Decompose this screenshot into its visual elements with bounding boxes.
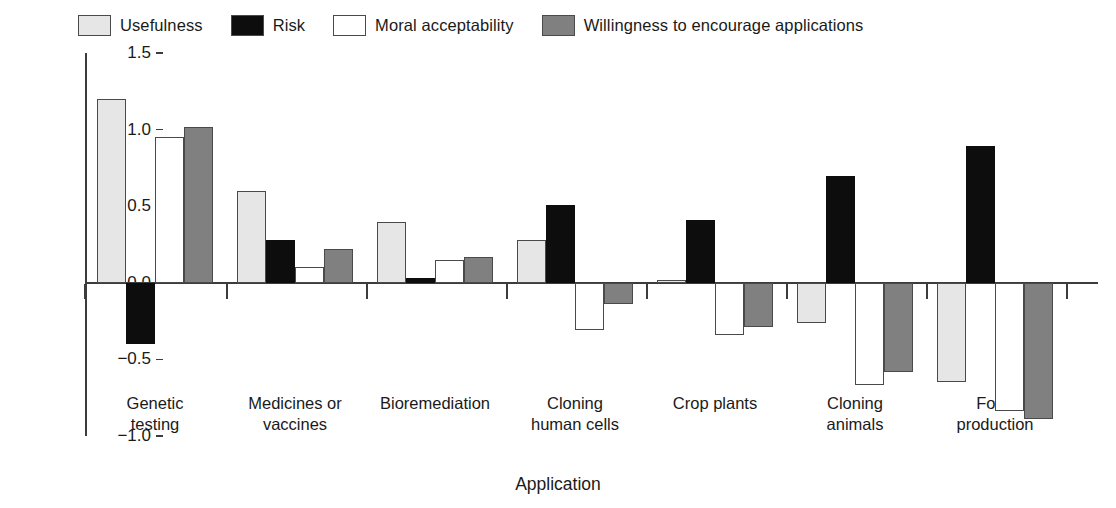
legend-label: Risk xyxy=(273,17,305,34)
y-axis-tick xyxy=(156,435,163,437)
x-axis-group-label: Medicines or vaccines xyxy=(248,393,342,435)
bar xyxy=(855,283,884,386)
bar xyxy=(377,222,406,283)
bar xyxy=(797,283,826,323)
group-separator-tick xyxy=(226,284,228,299)
bar xyxy=(884,283,913,372)
bar xyxy=(406,278,435,283)
legend-item: Moral acceptability xyxy=(333,15,514,36)
legend-swatch xyxy=(231,15,264,36)
y-axis-tick-label: −0.5 xyxy=(117,349,151,369)
bar xyxy=(575,283,604,330)
plot-area: 1.51.00.50.0−0.5−1.0 Genetic testingMedi… xyxy=(85,53,1098,436)
y-axis-tick-label: 0.5 xyxy=(127,196,151,216)
legend-label: Moral acceptability xyxy=(375,17,514,34)
bar xyxy=(546,205,575,283)
x-axis-group-label: Cloning animals xyxy=(827,393,884,435)
legend-label: Willingness to encourage applications xyxy=(584,17,864,34)
x-axis-group-label: Crop plants xyxy=(673,393,757,414)
chart-figure: UsefulnessRiskMoral acceptabilityWilling… xyxy=(0,0,1116,508)
x-axis-group-label: Cloning human cells xyxy=(531,393,619,435)
bar xyxy=(744,283,773,327)
chart-legend: UsefulnessRiskMoral acceptabilityWilling… xyxy=(78,10,891,40)
bar xyxy=(155,137,184,283)
bar xyxy=(715,283,744,335)
y-axis-tick-label: 1.5 xyxy=(127,43,151,63)
bar xyxy=(295,267,324,282)
bar xyxy=(995,283,1024,412)
bar xyxy=(184,127,213,283)
group-separator-tick xyxy=(646,284,648,299)
bar xyxy=(657,280,686,283)
legend-swatch xyxy=(333,15,366,36)
legend-swatch xyxy=(78,15,111,36)
legend-label: Usefulness xyxy=(120,17,203,34)
bar xyxy=(686,220,715,283)
y-axis-tick-label: 1.0 xyxy=(127,120,151,140)
y-axis-tick xyxy=(156,359,163,361)
legend-item: Willingness to encourage applications xyxy=(542,15,864,36)
group-separator-tick xyxy=(506,284,508,299)
legend-item: Risk xyxy=(231,15,305,36)
legend-item: Usefulness xyxy=(78,15,203,36)
group-separator-tick xyxy=(786,284,788,299)
y-axis-tick xyxy=(156,129,163,131)
bar xyxy=(97,99,126,283)
bar xyxy=(435,260,464,283)
bar xyxy=(324,249,353,283)
bar xyxy=(464,257,493,283)
x-axis-group-label: Genetic testing xyxy=(127,393,184,435)
bar xyxy=(237,191,266,283)
bar xyxy=(1024,283,1053,419)
x-axis-title: Application xyxy=(515,474,601,495)
legend-swatch xyxy=(542,15,575,36)
bar xyxy=(966,146,995,282)
group-separator-tick xyxy=(926,284,928,299)
x-axis-group-label: Bioremediation xyxy=(380,393,490,414)
bar xyxy=(266,240,295,283)
group-separator-tick xyxy=(366,284,368,299)
bar xyxy=(517,240,546,283)
bar xyxy=(826,176,855,283)
bar xyxy=(937,283,966,383)
group-separator-tick xyxy=(1066,284,1068,299)
group-separator-tick xyxy=(84,284,86,299)
y-axis-tick xyxy=(156,52,163,54)
bar xyxy=(604,283,633,304)
bar xyxy=(126,283,155,344)
